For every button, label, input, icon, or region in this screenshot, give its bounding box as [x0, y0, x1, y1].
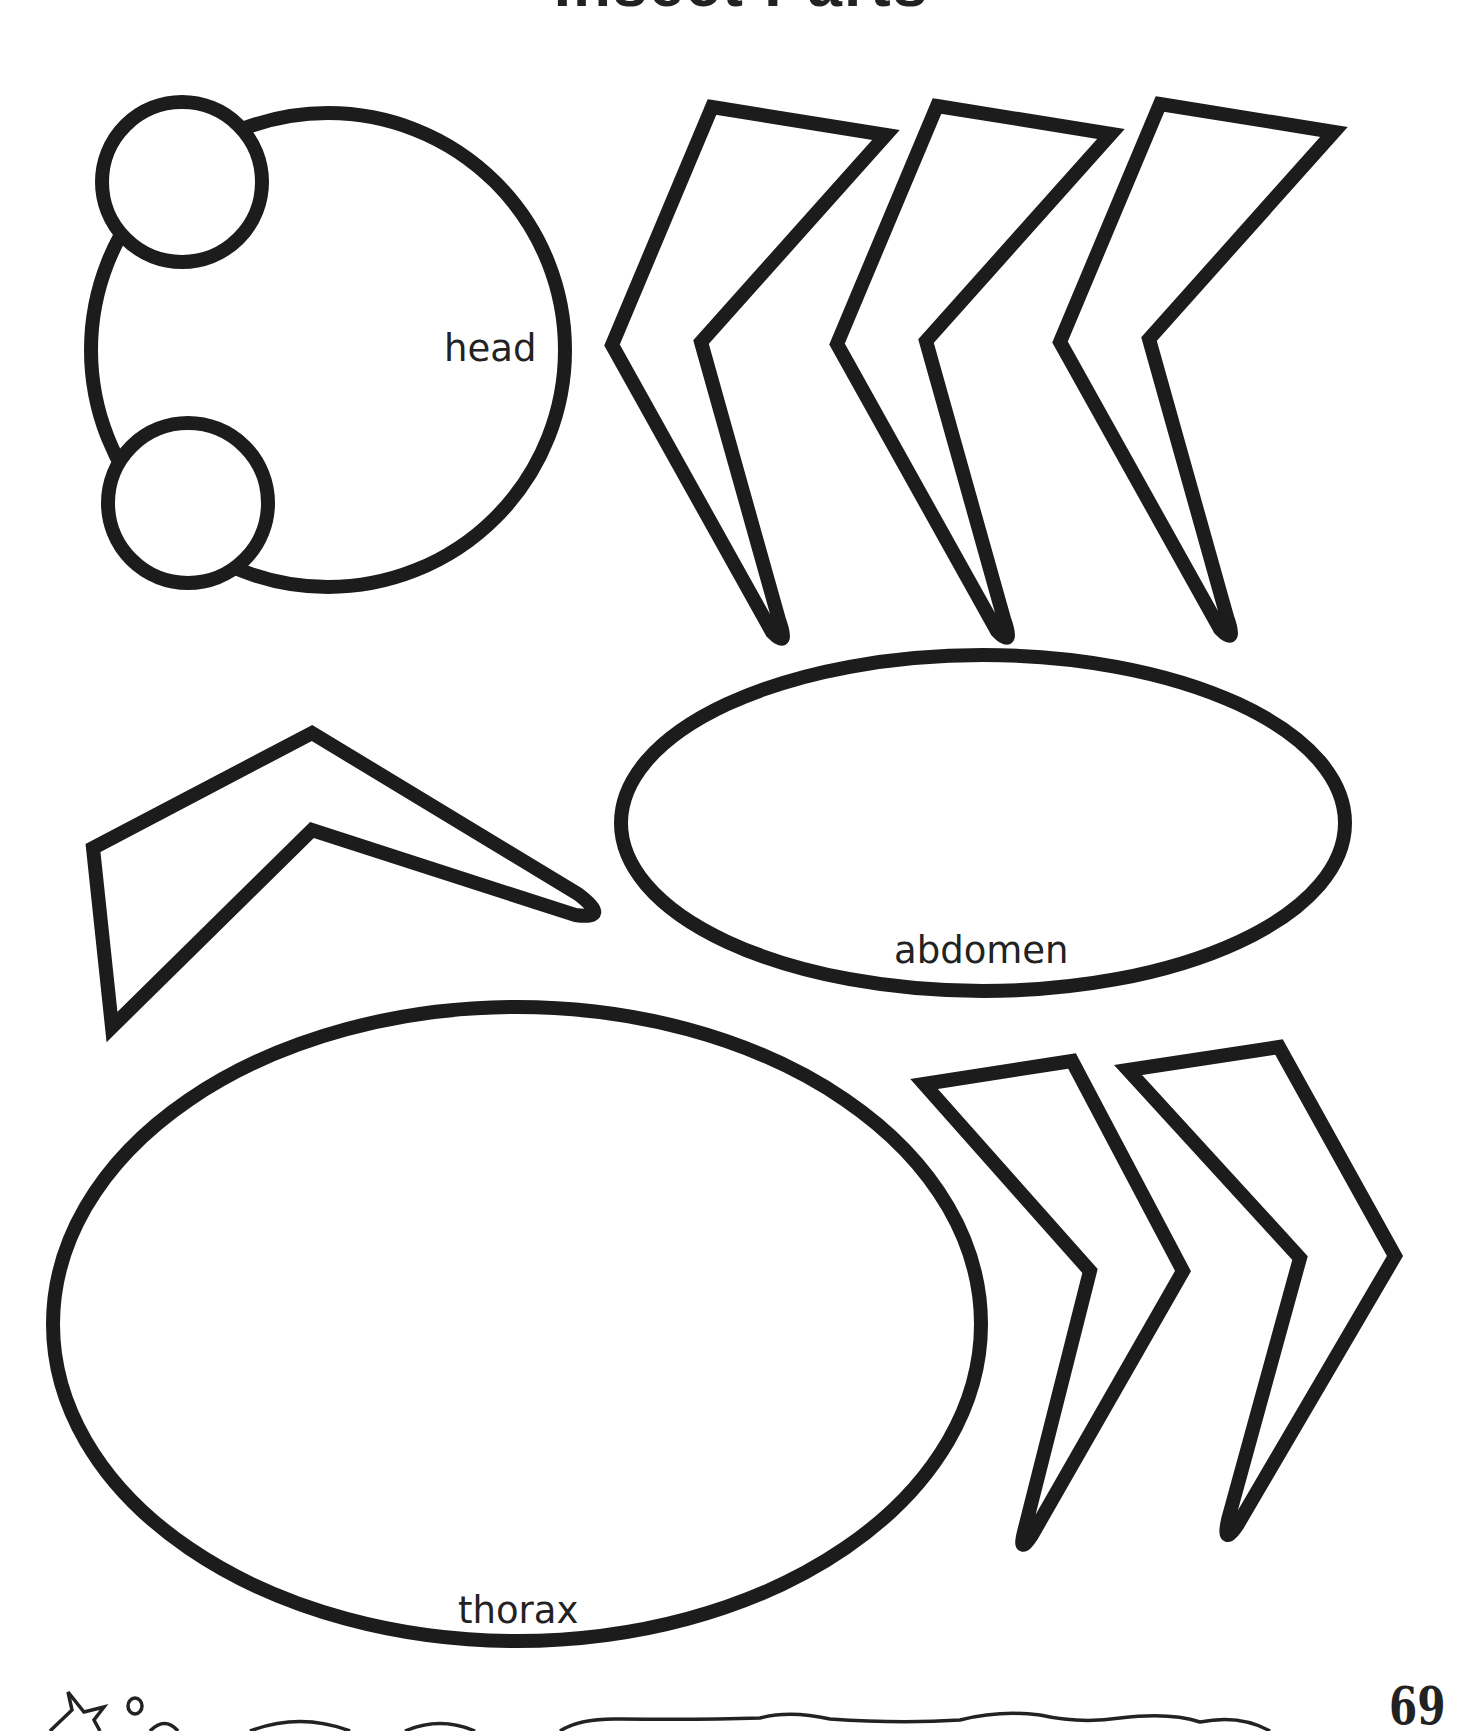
upper-leg-1 — [612, 107, 886, 639]
thorax-ellipse — [53, 1007, 981, 1641]
side-leg — [93, 733, 594, 1027]
star-icon — [50, 1692, 104, 1731]
insect-parts-artwork — [0, 0, 1483, 1731]
page-number: 69 — [1389, 1680, 1445, 1731]
eye-top — [102, 102, 262, 262]
abdomen-label: abdomen — [894, 932, 1069, 969]
head-label: head — [444, 330, 536, 367]
upper-legs — [612, 104, 1334, 639]
upper-leg-3 — [1060, 104, 1334, 636]
circle-icon — [128, 1698, 142, 1714]
lower-legs — [924, 1047, 1395, 1545]
eye-bottom — [108, 423, 268, 583]
footer-decoration — [50, 1692, 1270, 1731]
thorax-label: thorax — [458, 1592, 578, 1629]
wavy-border — [150, 1713, 1270, 1731]
